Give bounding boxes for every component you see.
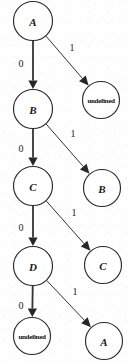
node-label: D [28,261,37,273]
node-label: C [29,181,37,193]
arrow-head-icon [28,308,37,317]
edge-label-1: 1 [71,128,76,139]
node-n5-c[interactable]: C [85,247,122,284]
state-transition-diagram: AundefinedBBCCDundefinedA 01010101 [0,0,128,363]
edge-0-n2-to-n4 [28,129,37,166]
node-n7-undefined[interactable]: undefined [14,318,51,355]
node-n1-undefined[interactable]: undefined [83,82,120,119]
node-label: undefined [87,97,115,105]
arrow-head-icon [28,238,37,247]
graph-canvas: AundefinedBBCCDundefinedA 01010101 [0,0,128,363]
node-label: B [28,104,36,116]
edge-0-n6-to-n7 [28,286,37,317]
edge-label-0: 0 [19,222,24,233]
node-label: A [28,16,36,28]
edge-label-0: 0 [19,300,24,311]
node-label: A [99,336,107,348]
node-label: B [97,183,105,195]
edge-label-1: 1 [72,207,77,218]
edge-1-n0-to-n1 [46,36,89,85]
edge-label-1: 1 [70,42,75,53]
node-n8-a[interactable]: A [86,323,123,360]
edge-0-n0-to-n2 [28,41,37,89]
node-n2-b[interactable]: B [14,90,53,129]
node-n3-b[interactable]: B [84,170,121,207]
node-label: undefined [18,333,46,341]
edge-0-n4-to-n6 [28,206,37,246]
arrow-head-icon [28,81,37,90]
nodes-layer: AundefinedBBCCDundefinedA [14,2,123,360]
node-label: C [99,260,107,272]
arrow-head-icon [79,76,89,86]
node-n6-d[interactable]: D [14,247,53,286]
node-n0-a[interactable]: A [14,2,53,41]
edge-1-n4-to-n5 [46,201,90,251]
edge-1-n6-to-n8 [47,281,91,328]
edge-label-1: 1 [73,286,78,297]
arrow-head-icon [80,164,90,174]
node-n4-c[interactable]: C [14,167,53,206]
edge-label-0: 0 [19,58,24,69]
arrow-head-icon [28,158,37,167]
edge-1-n2-to-n3 [46,124,89,174]
edge-label-0: 0 [19,143,24,154]
